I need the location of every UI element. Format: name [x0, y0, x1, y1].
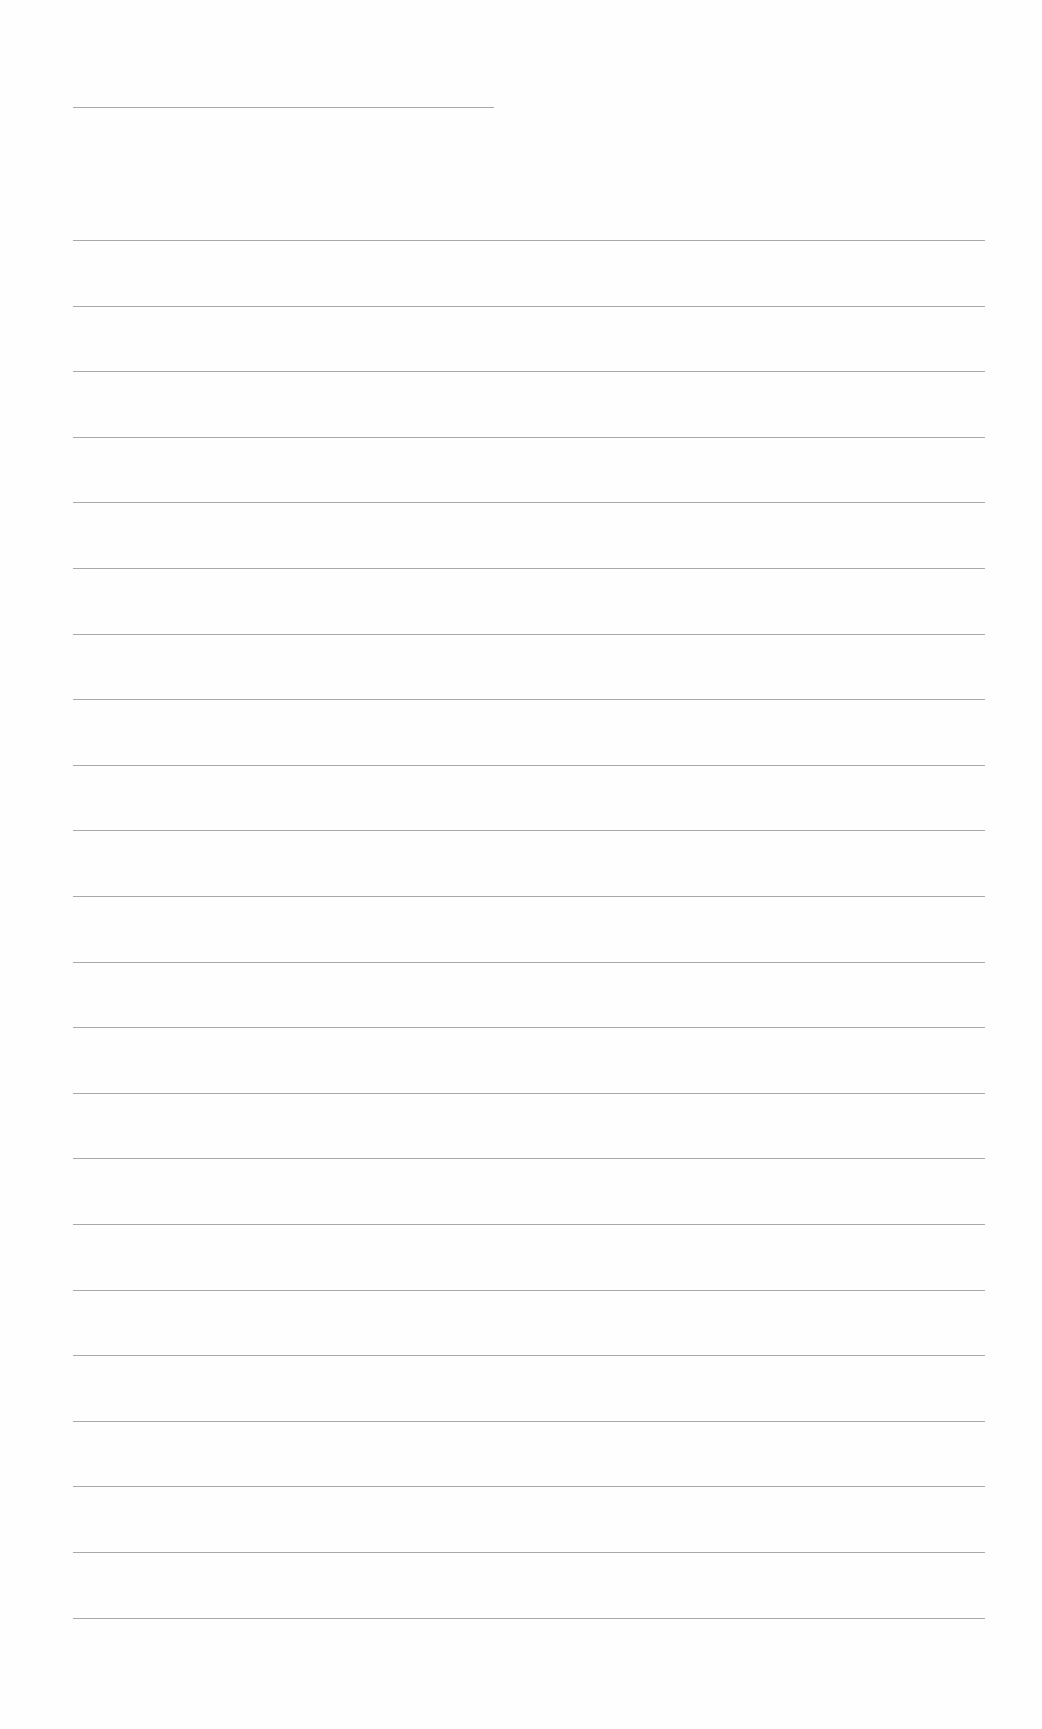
- ruled-line: [73, 502, 985, 503]
- ruled-line: [73, 240, 985, 241]
- ruled-line: [73, 634, 985, 635]
- lined-paper-page: [0, 0, 1042, 1729]
- ruled-line: [73, 1486, 985, 1487]
- ruled-line: [73, 1224, 985, 1225]
- title-line: [73, 107, 494, 108]
- ruled-line: [73, 1027, 985, 1028]
- ruled-line: [73, 830, 985, 831]
- ruled-line: [73, 306, 985, 307]
- ruled-line: [73, 371, 985, 372]
- ruled-line: [73, 699, 985, 700]
- ruled-line: [73, 1290, 985, 1291]
- ruled-line: [73, 1093, 985, 1094]
- ruled-line: [73, 1552, 985, 1553]
- ruled-line: [73, 1158, 985, 1159]
- ruled-line: [73, 765, 985, 766]
- ruled-line: [73, 1355, 985, 1356]
- ruled-line: [73, 437, 985, 438]
- ruled-line: [73, 962, 985, 963]
- ruled-line: [73, 896, 985, 897]
- ruled-line: [73, 1618, 985, 1619]
- ruled-line: [73, 568, 985, 569]
- ruled-line: [73, 1421, 985, 1422]
